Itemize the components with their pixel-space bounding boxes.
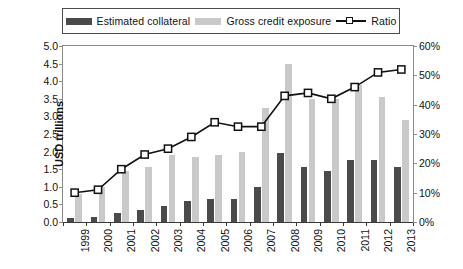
ratio-data-point-marker xyxy=(211,119,218,126)
y-axis-tick-mark xyxy=(59,64,63,65)
ratio-data-point-marker xyxy=(398,66,405,73)
legend-line-square-icon xyxy=(336,16,366,26)
x-axis-tick-label: 2004 xyxy=(195,229,207,252)
ratio-data-point-marker xyxy=(234,123,241,130)
y2-axis-tick-mark xyxy=(413,193,417,194)
ratio-data-point-marker xyxy=(374,69,381,76)
y-axis-tick-mark xyxy=(59,116,63,117)
x-axis-tick-label: 1999 xyxy=(79,229,91,252)
y-axis-tick-label: 1.5 xyxy=(43,163,58,175)
ratio-data-point-marker xyxy=(304,89,311,96)
ratio-data-point-marker xyxy=(94,186,101,193)
ratio-data-point-marker xyxy=(188,133,195,140)
y2-axis-tick-mark xyxy=(413,134,417,135)
ratio-data-point-marker xyxy=(328,95,335,102)
legend-label-estimated-collateral: Estimated collateral xyxy=(97,15,191,27)
y-axis-tick-label: 0.5 xyxy=(43,198,58,210)
ratio-data-point-marker xyxy=(141,151,148,158)
x-axis-tick-label: 2007 xyxy=(265,229,277,252)
x-axis-tick-mark xyxy=(156,222,157,226)
x-axis-tick-label: 2003 xyxy=(172,229,184,252)
y-axis-tick-mark xyxy=(59,99,63,100)
x-axis-tick-label: 2008 xyxy=(289,229,301,252)
y2-axis-tick-mark xyxy=(413,222,417,223)
legend-swatch-dark-icon xyxy=(66,18,92,25)
x-axis-tick-mark xyxy=(343,222,344,226)
y-axis-tick-mark xyxy=(59,222,63,223)
ratio-data-point-marker xyxy=(281,92,288,99)
y-axis-tick-mark xyxy=(59,46,63,47)
y2-axis-tick-mark xyxy=(413,46,417,47)
ratio-data-point-marker xyxy=(351,83,358,90)
ratio-data-point-marker xyxy=(258,123,265,130)
y-axis-tick-label: 2.5 xyxy=(43,128,58,140)
legend-item-ratio: Ratio xyxy=(336,15,396,27)
y2-axis-tick-mark xyxy=(413,163,417,164)
x-axis-tick-label: 2011 xyxy=(359,229,371,252)
y-axis-tick-mark xyxy=(59,169,63,170)
x-axis-tick-mark xyxy=(226,222,227,226)
y2-axis-tick-label: 10% xyxy=(419,187,440,199)
y2-axis-tick-mark xyxy=(413,75,417,76)
x-axis-tick-label: 2002 xyxy=(149,229,161,252)
y-axis-tick-mark xyxy=(59,187,63,188)
x-axis-tick-mark xyxy=(203,222,204,226)
y2-axis-tick-label: 60% xyxy=(419,40,440,52)
legend-item-estimated-collateral: Estimated collateral xyxy=(66,15,191,27)
y-axis-tick-label: 0.0 xyxy=(43,216,58,228)
ratio-line-series xyxy=(63,46,413,222)
plot-area: USD trillions 19992000200120022003200420… xyxy=(62,45,414,223)
y-axis-tick-label: 3.5 xyxy=(43,93,58,105)
x-axis-tick-mark xyxy=(390,222,391,226)
x-axis-tick-label: 2012 xyxy=(382,229,394,252)
x-axis-tick-mark xyxy=(63,222,64,226)
x-axis-tick-label: 2013 xyxy=(405,229,417,252)
x-axis-tick-mark xyxy=(110,222,111,226)
x-axis-tick-mark xyxy=(86,222,87,226)
y2-axis-tick-label: 40% xyxy=(419,99,440,111)
y2-axis-tick-label: 30% xyxy=(419,128,440,140)
legend-label-ratio: Ratio xyxy=(371,15,396,27)
x-axis-tick-label: 2001 xyxy=(125,229,137,252)
y-axis-tick-mark xyxy=(59,81,63,82)
legend-item-gross-credit-exposure: Gross credit exposure xyxy=(195,15,331,27)
x-axis-tick-mark xyxy=(180,222,181,226)
y2-axis-tick-mark xyxy=(413,105,417,106)
legend-swatch-light-icon xyxy=(195,18,221,25)
y-axis-tick-label: 5.0 xyxy=(43,40,58,52)
y-axis-tick-mark xyxy=(59,152,63,153)
y-axis-tick-label: 4.0 xyxy=(43,75,58,87)
x-axis-tick-mark xyxy=(296,222,297,226)
legend-label-gross-credit-exposure: Gross credit exposure xyxy=(226,15,331,27)
x-axis-tick-label: 2009 xyxy=(312,229,324,252)
y-axis-tick-label: 1.0 xyxy=(43,181,58,193)
y2-axis-tick-label: 0% xyxy=(419,216,434,228)
y-axis-tick-label: 2.0 xyxy=(43,146,58,158)
x-axis-tick-mark xyxy=(133,222,134,226)
y-axis-tick-label: 3.0 xyxy=(43,110,58,122)
y-axis-tick-mark xyxy=(59,204,63,205)
plot-inner: 1999200020012002200320042005200620072008… xyxy=(63,46,413,222)
x-axis-tick-label: 2000 xyxy=(102,229,114,252)
y-axis-tick-mark xyxy=(59,134,63,135)
x-axis-tick-label: 2006 xyxy=(242,229,254,252)
x-axis-tick-mark xyxy=(366,222,367,226)
x-axis-tick-label: 2010 xyxy=(335,229,347,252)
y-axis-tick-label: 4.5 xyxy=(43,58,58,70)
x-axis-tick-mark xyxy=(273,222,274,226)
y2-axis-tick-label: 20% xyxy=(419,157,440,169)
chart-legend: Estimated collateral Gross credit exposu… xyxy=(62,8,400,34)
ratio-data-point-marker xyxy=(164,145,171,152)
ratio-data-point-marker xyxy=(71,189,78,196)
x-axis-tick-mark xyxy=(250,222,251,226)
y2-axis-tick-label: 50% xyxy=(419,69,440,81)
x-axis-tick-label: 2005 xyxy=(219,229,231,252)
chart-container: Estimated collateral Gross credit exposu… xyxy=(0,0,463,269)
x-axis-tick-mark xyxy=(320,222,321,226)
ratio-data-point-marker xyxy=(118,166,125,173)
